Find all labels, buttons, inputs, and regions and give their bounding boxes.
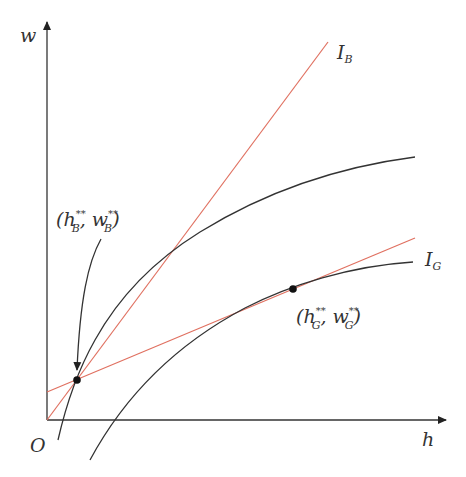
point-b-label: (h**B, w**B) — [56, 208, 120, 235]
curve-g — [90, 262, 413, 460]
curve-b — [58, 157, 415, 440]
ig-label: IG — [424, 248, 442, 273]
line-ib — [47, 42, 328, 420]
point-b — [73, 376, 81, 384]
origin-label: O — [30, 434, 46, 456]
point-g — [289, 285, 297, 293]
point-g-label: (h**G, w**G) — [296, 305, 361, 332]
ib-label: IB — [336, 41, 353, 66]
x-axis-label: h — [422, 428, 434, 450]
diagram-canvas: w h O IB IG (h**B, w**B) (h**G, w**G) — [0, 0, 466, 477]
y-axis-label: w — [20, 24, 36, 46]
